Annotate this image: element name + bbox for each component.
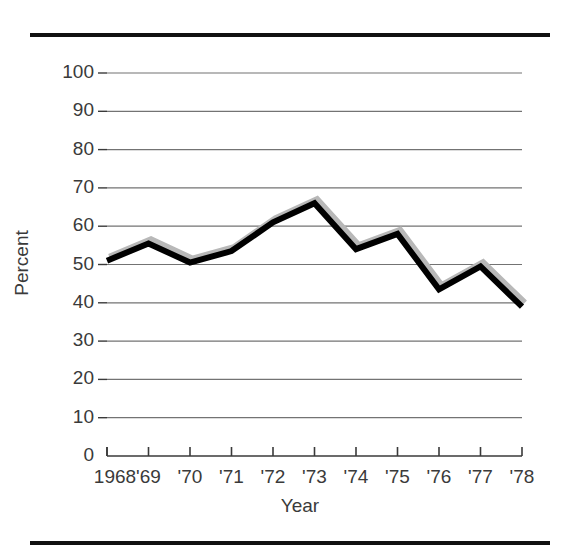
y-axis-tick-label: 100 <box>40 61 94 83</box>
x-axis-tick-label: '75 <box>376 466 420 488</box>
y-axis-tick-label: 80 <box>40 138 94 160</box>
x-axis-tick-label: '76 <box>417 466 461 488</box>
x-axis-tick-label: '70 <box>168 466 212 488</box>
y-axis-tick-label: 60 <box>40 214 94 236</box>
x-axis-title: Year <box>0 495 565 517</box>
x-axis-tick-label: '69 <box>127 466 171 488</box>
y-axis-tick-label: 10 <box>40 406 94 428</box>
y-axis-tick-label: 70 <box>40 176 94 198</box>
x-axis-tick-label: '71 <box>210 466 254 488</box>
x-axis-tick-label: '78 <box>500 466 544 488</box>
y-axis-tick-label: 40 <box>40 291 94 313</box>
y-axis-tick-label: 50 <box>40 253 94 275</box>
x-axis-tick-label: '74 <box>334 466 378 488</box>
chart-figure: 0102030405060708090100 1968'69'70'71'72'… <box>0 0 565 547</box>
y-axis-tick-label: 20 <box>40 367 94 389</box>
y-axis-tick-label: 30 <box>40 329 94 351</box>
x-axis-tick-label: '77 <box>459 466 503 488</box>
y-axis-tick-label: 0 <box>40 444 94 466</box>
series-line-path <box>107 203 522 306</box>
y-axis-tick-label: 90 <box>40 99 94 121</box>
y-axis-title: Percent <box>11 213 33 313</box>
x-axis-tick-label: '72 <box>251 466 295 488</box>
x-axis-tick-label: '73 <box>293 466 337 488</box>
